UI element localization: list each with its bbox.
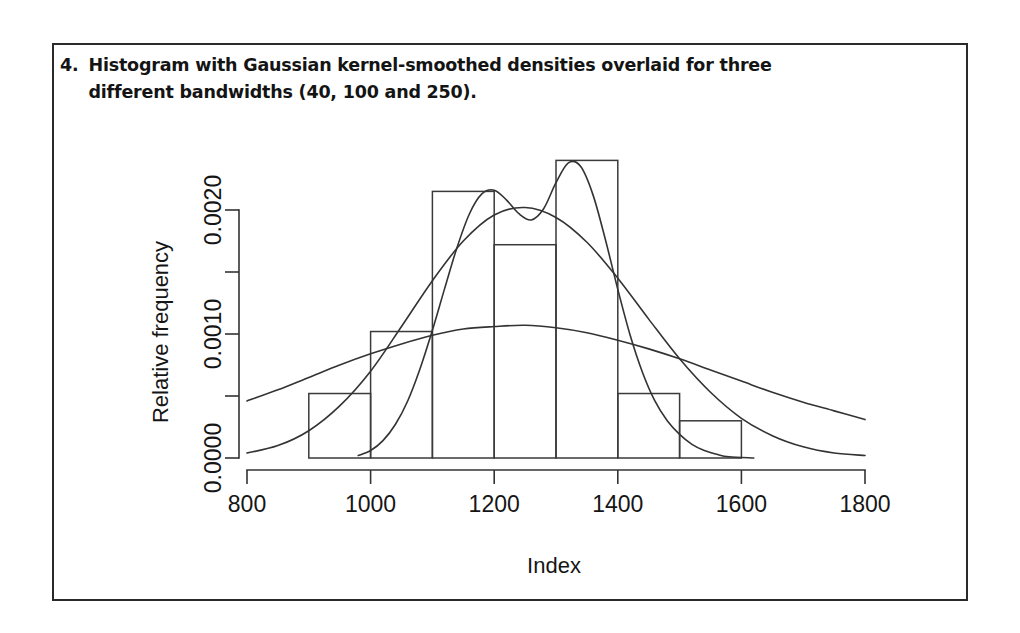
caption-text: Histogram with Gaussian kernel-smoothed … (88, 52, 860, 106)
figure-frame (52, 43, 968, 601)
caption-number: 4. (60, 52, 78, 106)
figure-caption: 4. Histogram with Gaussian kernel-smooth… (60, 52, 860, 106)
page-root: 4. Histogram with Gaussian kernel-smooth… (0, 0, 1020, 633)
